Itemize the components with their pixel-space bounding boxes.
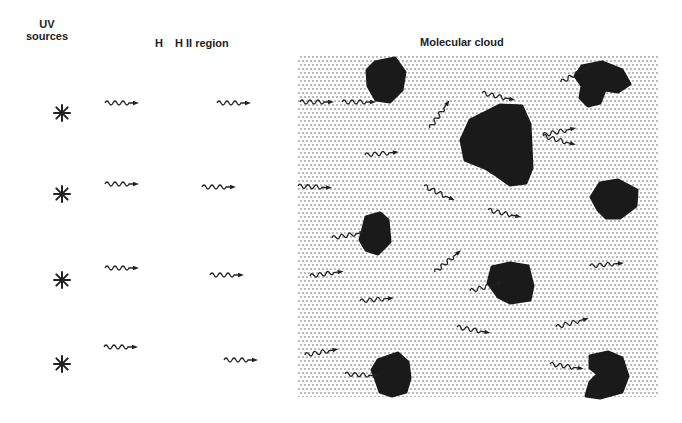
dense-clump: [360, 213, 390, 254]
photon-arrow-icon: [105, 182, 139, 186]
h-label: H: [155, 37, 163, 49]
photon-arrow-icon: [105, 266, 139, 270]
uv-label-line1: UV: [22, 18, 72, 30]
molecular-cloud-label: Molecular cloud: [420, 36, 504, 48]
uv-source-stars: [54, 105, 70, 372]
hii-region-label: H II region: [175, 37, 229, 49]
dense-clump: [372, 353, 410, 396]
uv-sources-label: UV sources: [22, 18, 72, 42]
star-icon: [54, 356, 70, 372]
star-icon: [54, 186, 70, 202]
photon-arrow-icon: [217, 101, 251, 105]
photon-arrow-icon: [202, 185, 236, 189]
star-icon: [54, 105, 70, 121]
diagram-canvas: [0, 0, 682, 423]
molecular-cloud-region: [298, 55, 658, 397]
photon-arrow-icon: [105, 101, 139, 105]
photon-arrow-icon: [104, 345, 138, 349]
photon-arrow-icon: [210, 273, 244, 277]
star-icon: [54, 272, 70, 288]
uv-label-line2: sources: [22, 30, 72, 42]
photon-arrow-icon: [224, 358, 258, 362]
